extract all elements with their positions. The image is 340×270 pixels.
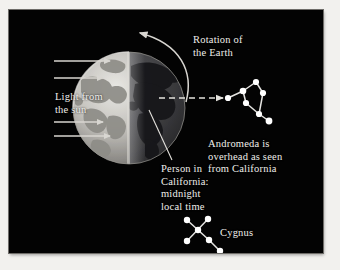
label-cygnus: Cygnus <box>220 227 253 240</box>
figure-page: Light from the sun Rotation of the Earth… <box>0 0 340 270</box>
label-sunlight: Light from the sun <box>55 91 103 116</box>
constellation-andromeda <box>225 79 273 125</box>
diagram-graphics <box>9 10 323 253</box>
label-rotation: Rotation of the Earth <box>193 34 243 59</box>
label-andromeda: Andromeda is overhead as seen from Calif… <box>208 138 282 176</box>
diagram-panel: Light from the sun Rotation of the Earth… <box>9 10 323 253</box>
label-person-california: Person in California: midnight local tim… <box>161 163 209 213</box>
constellation-cygnus <box>184 216 223 253</box>
